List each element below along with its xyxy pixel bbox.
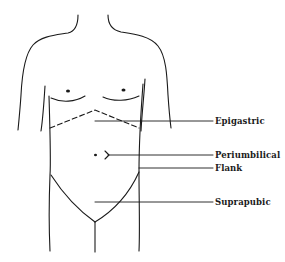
label-periumbilical: Periumbilical [215,150,280,160]
umbilicus-icon [94,154,97,157]
left-groin-line [51,175,95,222]
left-pectoral-curve [51,96,85,101]
right-pectoral-curve [103,96,139,100]
torso-diagram: Epigastric Periumbilical Flank Suprapubi… [0,0,285,262]
left-torso-side [49,96,50,251]
left-neck-shoulder-arm-outline [18,15,78,130]
right-neck-shoulder-arm-outline [108,15,171,128]
label-flank: Flank [215,163,242,173]
label-epigastric: Epigastric [215,116,265,126]
costal-margin-dashed [50,110,139,128]
right-nipple-icon [122,88,126,91]
label-suprapubic: Suprapubic [215,197,271,207]
left-nipple-icon [66,89,70,92]
left-inner-arm-line [41,86,45,131]
right-groin-line [95,172,139,222]
torso-outline-drawing [0,0,285,262]
